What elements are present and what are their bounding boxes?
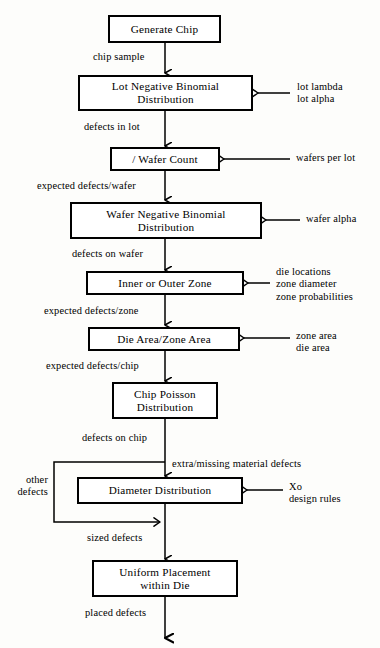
edge-label-defects-in-lot: defects in lot [84, 121, 140, 133]
node-chip-poisson-label: Chip Poisson Distribution [134, 388, 196, 413]
node-diameter-distribution[interactable]: Diameter Distribution [77, 477, 243, 504]
edge-label-expected-defects-chip: expected defects/chip [46, 360, 139, 372]
input-label-wafer-alpha: wafer alpha [306, 213, 356, 225]
node-lot-negative-binomial[interactable]: Lot Negative Binomial Distribution [78, 75, 253, 111]
edge-label-expected-defects-wafer: expected defects/wafer [37, 180, 136, 192]
flowchart-canvas: Generate Chip Lot Negative Binomial Dist… [0, 0, 380, 648]
node-diameter-distribution-label: Diameter Distribution [109, 484, 212, 497]
node-wafer-negative-binomial-label: Wafer Negative Binomial Distribution [106, 208, 225, 233]
edge-label-sized-defects: sized defects [87, 532, 142, 544]
node-wafer-negative-binomial[interactable]: Wafer Negative Binomial Distribution [70, 202, 262, 239]
edge-label-other-defects: other defects [8, 474, 48, 499]
edge-label-defects-on-chip: defects on chip [82, 432, 147, 444]
node-die-area-zone-area-label: Die Area/Zone Area [117, 333, 211, 346]
input-label-zone-inputs: die locations zone diameter zone probabi… [276, 266, 353, 303]
input-label-wafers-per-lot: wafers per lot [296, 152, 355, 164]
node-wafer-count[interactable]: / Wafer Count [110, 147, 220, 171]
node-generate-chip[interactable]: Generate Chip [108, 15, 221, 43]
edge-label-extra-missing-material-defects: extra/missing material defects [172, 458, 301, 470]
node-lot-negative-binomial-label: Lot Negative Binomial Distribution [112, 80, 219, 105]
edge-label-placed-defects: placed defects [85, 607, 146, 619]
edge-label-defects-on-wafer: defects on wafer [72, 248, 143, 260]
input-label-diameter-inputs: Xo design rules [289, 481, 341, 506]
edge-label-expected-defects-zone: expected defects/zone [44, 305, 139, 317]
node-inner-or-outer-zone-label: Inner or Outer Zone [118, 277, 212, 290]
input-label-area-inputs: zone area die area [296, 330, 337, 355]
node-inner-or-outer-zone[interactable]: Inner or Outer Zone [86, 271, 244, 295]
node-generate-chip-label: Generate Chip [131, 23, 199, 36]
node-chip-poisson[interactable]: Chip Poisson Distribution [112, 382, 218, 419]
node-die-area-zone-area[interactable]: Die Area/Zone Area [88, 327, 240, 351]
node-uniform-placement-label: Uniform Placement within Die [119, 566, 210, 591]
input-label-lot-inputs: lot lambda lot alpha [297, 81, 343, 106]
node-wafer-count-label: / Wafer Count [132, 153, 198, 166]
node-uniform-placement[interactable]: Uniform Placement within Die [92, 560, 238, 597]
edge-label-chip-sample: chip sample [93, 51, 145, 63]
